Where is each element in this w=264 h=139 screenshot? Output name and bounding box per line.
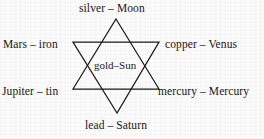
center-label-gold-sun: gold–Sun (93, 59, 137, 72)
hexagram-diagram: silver – Moon Mars – iron copper – Venus… (0, 0, 264, 139)
downward-triangle (73, 42, 159, 113)
node-label-jupiter-tin: Jupiter – tin (2, 85, 58, 98)
node-label-silver-moon: silver – Moon (79, 2, 145, 15)
node-label-lead-saturn: lead – Saturn (85, 119, 147, 132)
node-label-copper-venus: copper – Venus (165, 38, 237, 51)
node-label-mercury-mercury: mercury – Mercury (158, 85, 249, 98)
node-label-mars-iron: Mars – iron (3, 38, 58, 51)
upward-triangle (73, 19, 159, 89)
